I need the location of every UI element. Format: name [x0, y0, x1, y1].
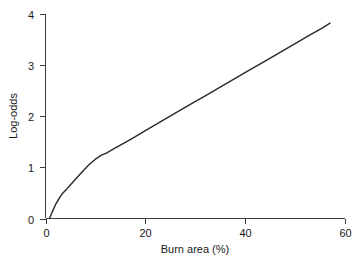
- x-tick-label: 60: [339, 227, 351, 239]
- data-series-line: [49, 23, 330, 218]
- y-tick-label: 0: [28, 214, 34, 226]
- y-axis-tick-labels: 01234: [28, 9, 34, 226]
- y-tick-label: 1: [28, 162, 34, 174]
- x-axis-ticks: [47, 219, 346, 225]
- y-tick-label: 4: [28, 9, 34, 21]
- x-axis-title: Burn area (%): [161, 243, 229, 255]
- chart-container: 01234 0204060 Burn area (%) Log-odds: [0, 0, 361, 265]
- x-axis-tick-labels: 0204060: [43, 227, 351, 239]
- y-axis-ticks: [40, 15, 46, 220]
- y-tick-label: 3: [28, 60, 34, 72]
- line-chart: 01234 0204060 Burn area (%) Log-odds: [0, 0, 361, 265]
- x-tick-label: 20: [139, 227, 151, 239]
- x-tick-label: 0: [43, 227, 49, 239]
- y-axis-title: Log-odds: [7, 93, 19, 139]
- x-tick-label: 40: [239, 227, 251, 239]
- y-tick-label: 2: [28, 111, 34, 123]
